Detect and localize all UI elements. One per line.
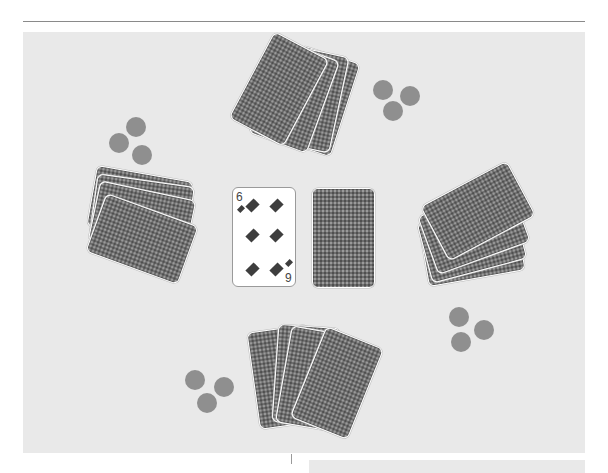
diamond-icon <box>285 259 293 267</box>
diamond-icon <box>237 205 245 213</box>
diamond-icon <box>269 228 283 242</box>
bottom-divider <box>291 454 292 464</box>
card-rank-flipped: 9 <box>285 272 292 284</box>
face-up-card[interactable]: 6 9 <box>232 187 296 287</box>
diamond-icon <box>245 198 259 212</box>
top-divider <box>23 21 585 22</box>
card-rank: 6 <box>236 191 243 203</box>
chip <box>474 320 494 340</box>
chip <box>449 307 469 327</box>
chip <box>132 145 152 165</box>
deck-card[interactable] <box>312 188 375 288</box>
chip <box>383 101 403 121</box>
bottom-panel <box>309 460 585 473</box>
chip <box>126 117 146 137</box>
diamond-icon <box>269 262 283 276</box>
chip <box>185 370 205 390</box>
diamond-icon <box>245 228 259 242</box>
chip <box>373 80 393 100</box>
diamond-icon <box>269 198 283 212</box>
chip <box>109 133 129 153</box>
chip <box>197 393 217 413</box>
chip <box>451 332 471 352</box>
diamond-icon <box>245 262 259 276</box>
chip <box>400 86 420 106</box>
card-table: 6 9 <box>23 32 585 453</box>
chip <box>214 377 234 397</box>
